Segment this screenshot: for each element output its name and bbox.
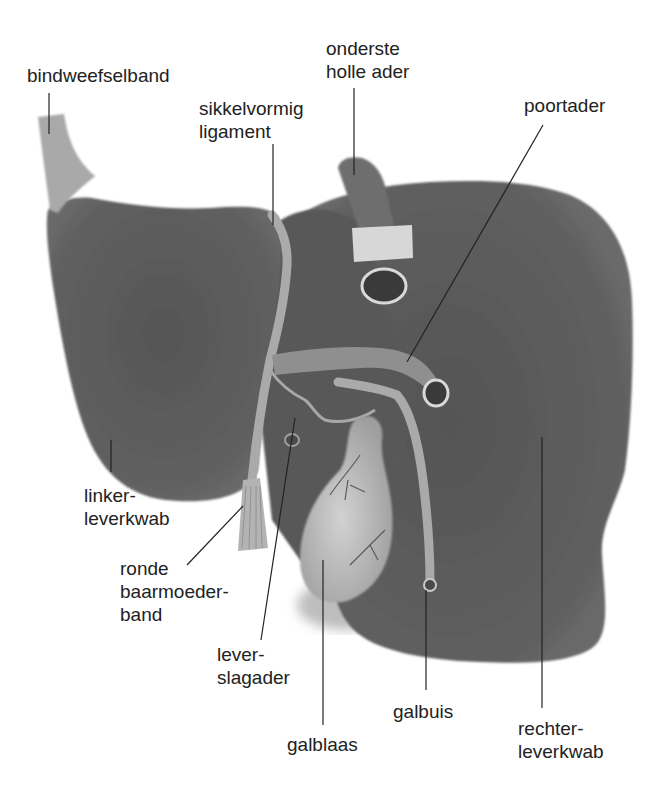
label-rechter-leverkwab: rechter- leverkwab xyxy=(518,717,604,763)
label-sikkelvormig-ligament: sikkelvormig ligament xyxy=(199,97,304,143)
bile-duct-opening xyxy=(424,579,436,591)
label-poortader: poortader xyxy=(524,94,605,117)
label-ronde-baarmoederband: ronde baarmoeder- band xyxy=(120,557,229,626)
label-lever-slagader: lever- slagader xyxy=(217,643,290,689)
label-bindweefselband: bindweefselband xyxy=(27,64,170,87)
label-onderste-holle-ader: onderste holle ader xyxy=(326,37,409,83)
label-linker-leverkwab: linker- leverkwab xyxy=(84,484,170,530)
vena-cava-opening xyxy=(362,269,406,303)
label-galbuis: galbuis xyxy=(393,700,453,723)
liver-diagram xyxy=(0,0,665,794)
label-galblaas: galblaas xyxy=(287,733,358,756)
left-lobe-shape xyxy=(47,198,282,502)
vena-cava-band xyxy=(352,225,413,262)
portal-vein-opening xyxy=(424,380,448,406)
